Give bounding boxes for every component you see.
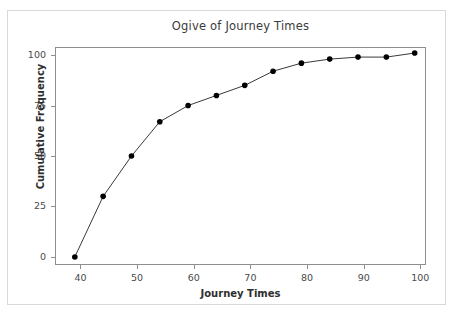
x-tick-mark [420,265,421,269]
x-tick-mark [307,265,308,269]
x-tick-label: 50 [117,272,157,283]
x-tick-mark [194,265,195,269]
data-point [214,93,220,99]
data-point-markers [72,50,417,259]
data-point [129,153,135,159]
data-point [327,56,333,62]
x-tick-label: 60 [174,272,214,283]
x-tick-mark [364,265,365,269]
x-tick-label: 80 [287,272,327,283]
data-point [157,119,163,125]
y-tick-mark [51,206,55,207]
data-point [412,50,418,56]
x-tick-mark [80,265,81,269]
data-point [384,54,390,60]
x-tick-label: 90 [344,272,384,283]
y-tick-mark [51,55,55,56]
x-axis-title: Journey Times [55,288,426,299]
data-point [100,194,106,200]
chart-title: Ogive of Journey Times [55,19,426,33]
chart-figure: Ogive of Journey Times 0255075100 405060… [0,0,454,317]
x-tick-mark [137,265,138,269]
data-point [270,68,276,74]
x-tick-label: 70 [230,272,270,283]
x-tick-label: 100 [400,272,440,283]
y-tick-mark [51,106,55,107]
data-point [72,254,78,260]
y-tick-mark [51,257,55,258]
y-tick-mark [51,156,55,157]
plot-canvas [55,47,426,265]
x-tick-mark [250,265,251,269]
data-point [185,103,191,109]
data-point [242,83,248,89]
x-tick-label: 40 [60,272,100,283]
y-axis-title: Cumulative Frequency [35,27,46,227]
data-point [355,54,361,60]
y-tick-label: 0 [13,251,46,262]
data-point [299,60,305,66]
